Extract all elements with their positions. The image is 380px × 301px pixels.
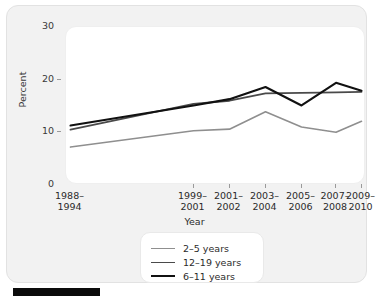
legend-swatch-line-icon: [151, 262, 175, 263]
x-tick-group: [65, 184, 365, 189]
y-tick-mark: [57, 131, 61, 132]
series-line: [71, 112, 362, 147]
x-tick-label: 2009–2010: [346, 190, 375, 212]
legend-label: 6–11 years: [183, 271, 235, 282]
series-line: [71, 83, 362, 126]
y-tick-label: 20: [42, 74, 54, 84]
x-tick-label: 1999–2001: [178, 190, 207, 212]
y-tick-label: 10: [42, 126, 54, 136]
y-tick-mark: [57, 79, 61, 80]
legend-label: 2–5 years: [183, 243, 229, 254]
figure-panel: Percent 0102030 1988–19941999–20012001–2…: [6, 5, 367, 283]
legend-item[interactable]: 12–19 years: [151, 255, 241, 269]
legend-swatch-line-icon: [151, 275, 175, 277]
x-tick-mark: [301, 184, 302, 188]
x-tick-label: 2005–2006: [286, 190, 315, 212]
y-tick-label: 0: [48, 179, 54, 189]
x-tick-mark: [193, 184, 194, 188]
y-axis: Percent 0102030: [7, 6, 65, 206]
x-axis-title: Year: [7, 216, 380, 227]
x-tick-label: 2001–2002: [214, 190, 243, 212]
plot-area: [65, 26, 365, 184]
legend-swatch-line-icon: [151, 248, 175, 249]
legend-item[interactable]: 2–5 years: [151, 241, 229, 255]
y-tick-label: 30: [42, 21, 54, 31]
x-tick-mark: [361, 184, 362, 188]
series-lines: [66, 27, 365, 184]
series-line: [71, 92, 362, 130]
x-tick-mark: [265, 184, 266, 188]
y-axis-title: Percent: [17, 72, 28, 108]
x-tick-mark: [335, 184, 336, 188]
legend-label: 12–19 years: [183, 257, 241, 268]
legend-item[interactable]: 6–11 years: [151, 269, 235, 283]
x-tick-mark: [229, 184, 230, 188]
x-tick-label: 2003–2004: [250, 190, 279, 212]
x-tick-label: 1988–1994: [55, 190, 84, 212]
chart-legend: 2–5 years12–19 years6–11 years: [140, 232, 264, 283]
bottom-black-bar: [13, 288, 100, 296]
